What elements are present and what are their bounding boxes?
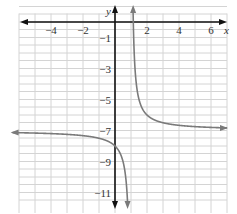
- x-tick-label: 6: [208, 24, 214, 36]
- y-tick-label: −7: [99, 125, 111, 137]
- tick-labels: −4−2246−1−3−5−7−9−11: [45, 24, 214, 199]
- y-tick-label: −3: [99, 63, 111, 75]
- y-tick-label: −9: [99, 156, 111, 168]
- graph: −4−2246−1−3−5−7−9−11 x y: [0, 0, 237, 213]
- x-tick-label: −2: [77, 24, 89, 36]
- x-tick-label: 4: [176, 24, 182, 36]
- y-axis-label: y: [105, 5, 111, 17]
- x-tick-label: 2: [144, 24, 150, 36]
- y-tick-label: −5: [99, 94, 111, 106]
- y-tick-label: −1: [99, 32, 111, 44]
- y-tick-label: −11: [94, 187, 111, 199]
- grid: [19, 7, 227, 214]
- x-tick-label: −4: [45, 24, 57, 36]
- x-axis-label: x: [223, 24, 229, 36]
